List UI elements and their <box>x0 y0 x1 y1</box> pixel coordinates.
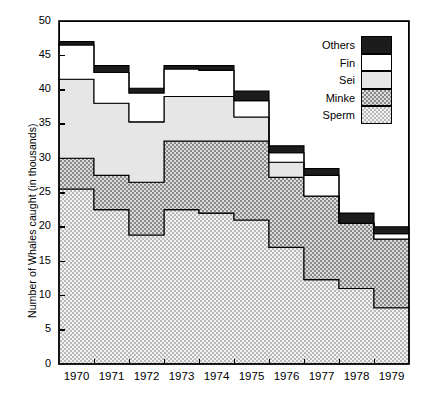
chart-figure: Number of Whales caught (in thousands) 0… <box>0 0 421 408</box>
legend-swatch-others <box>361 36 392 54</box>
y-tick-label: 30 <box>29 151 51 163</box>
x-tick-mark <box>339 359 341 364</box>
y-tick-mark <box>60 192 65 194</box>
y-tick-label: 45 <box>29 48 51 60</box>
legend-label-sei: Sei <box>295 74 355 86</box>
y-tick-mark <box>60 329 65 331</box>
y-tick-label: 25 <box>29 185 51 197</box>
y-tick-mark <box>60 123 65 125</box>
x-tick-mark <box>269 359 271 364</box>
x-tick-mark <box>199 359 201 364</box>
x-tick-mark <box>304 359 306 364</box>
x-tick-mark <box>374 359 376 364</box>
x-tick-mark <box>234 359 236 364</box>
legend-swatch-sperm <box>361 106 392 124</box>
y-tick-label: 10 <box>29 288 51 300</box>
y-tick-mark <box>60 55 65 57</box>
y-tick-label: 40 <box>29 82 51 94</box>
x-tick-mark <box>94 359 96 364</box>
legend-label-others: Others <box>295 39 355 51</box>
y-tick-mark <box>60 158 65 160</box>
y-tick-label: 50 <box>29 14 51 26</box>
legend-swatch-fin <box>361 54 392 72</box>
legend-swatch-minke <box>361 89 392 107</box>
y-tick-label: 35 <box>29 116 51 128</box>
y-tick-mark <box>60 261 65 263</box>
y-tick-mark <box>60 226 65 228</box>
y-tick-mark <box>60 89 65 91</box>
legend-label-fin: Fin <box>295 57 355 69</box>
y-tick-label: 20 <box>29 219 51 231</box>
stacked-area-series <box>0 0 421 408</box>
y-tick-label: 15 <box>29 254 51 266</box>
y-tick-mark <box>60 295 65 297</box>
y-tick-label: 0 <box>29 357 51 369</box>
legend-label-minke: Minke <box>295 92 355 104</box>
x-tick-label: 1979 <box>370 370 414 382</box>
x-tick-mark <box>164 359 166 364</box>
legend-label-sperm: Sperm <box>295 109 355 121</box>
x-tick-mark <box>129 359 131 364</box>
y-tick-label: 5 <box>29 322 51 334</box>
legend-swatch-sei <box>361 71 392 89</box>
